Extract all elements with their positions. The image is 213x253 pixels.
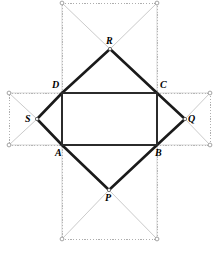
square-bottom-diagonal-right	[109, 190, 157, 239]
square-left-diagonal-top	[9, 93, 37, 119]
square-top-diagonal-left	[62, 3, 110, 49]
corner-node-top-left	[60, 1, 64, 5]
square-left-diagonal-bottom	[9, 119, 37, 145]
apex-nodes-group	[35, 47, 186, 191]
vertex-label-P: P	[105, 193, 111, 203]
corner-node-top-right	[155, 1, 159, 5]
apex-node-R	[108, 47, 111, 50]
segment-B-P	[109, 145, 157, 190]
apex-node-Q	[183, 117, 186, 120]
corner-node-right-bottom	[208, 143, 212, 147]
segment-S-D	[37, 93, 62, 119]
segment-D-R	[62, 49, 110, 93]
corner-node-left-top	[7, 91, 11, 95]
vertex-label-C: C	[160, 80, 167, 90]
segment-C-Q	[157, 93, 185, 119]
geometry-figure: A B C D P Q R S	[0, 0, 213, 253]
vertex-label-R: R	[106, 36, 113, 46]
corner-node-left-bottom	[7, 143, 11, 147]
vertex-label-S: S	[25, 114, 31, 124]
segment-R-C	[110, 49, 157, 93]
apex-node-S	[35, 117, 38, 120]
inner-rectangle-ABCD	[62, 93, 157, 145]
corner-node-bottom-right	[155, 237, 159, 241]
vertex-label-D: D	[52, 80, 59, 90]
corner-node-bottom-left	[60, 237, 64, 241]
segment-P-A	[62, 145, 109, 190]
segment-Q-B	[157, 119, 185, 145]
square-top-diagonal-right	[110, 3, 157, 49]
corner-node-right-top	[208, 91, 212, 95]
triangle-legs-group	[37, 49, 185, 190]
vertex-label-Q: Q	[188, 114, 195, 124]
vertex-label-A: A	[55, 148, 62, 158]
square-bottom-diagonal-left	[62, 190, 109, 239]
segment-A-S	[37, 119, 62, 145]
vertex-label-B: B	[155, 148, 162, 158]
rectangle-ABCD-outline	[62, 93, 157, 145]
